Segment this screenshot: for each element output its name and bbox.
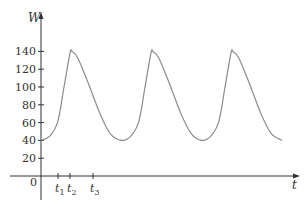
line-chart: 20406080100120140 t1t2t3 W t 0 bbox=[0, 0, 307, 206]
y-tick-label: 100 bbox=[15, 81, 36, 94]
y-tick-label: 80 bbox=[22, 99, 36, 112]
series-line bbox=[41, 50, 282, 141]
y-axis-ticks: 20406080100120140 bbox=[15, 45, 44, 165]
axes bbox=[10, 12, 300, 200]
y-tick-label: 60 bbox=[22, 117, 36, 130]
x-tick-label: t2 bbox=[67, 182, 77, 197]
x-tick-label: t1 bbox=[55, 182, 65, 197]
y-tick-label: 20 bbox=[22, 152, 36, 165]
origin-label: 0 bbox=[30, 176, 37, 189]
chart-container: 20406080100120140 t1t2t3 W t 0 bbox=[0, 0, 307, 206]
y-tick-label: 120 bbox=[15, 63, 36, 76]
x-tick-label: t3 bbox=[90, 182, 100, 197]
y-tick-label: 40 bbox=[22, 134, 36, 147]
y-axis-label: W bbox=[28, 11, 42, 25]
x-axis-ticks: t1t2t3 bbox=[55, 173, 100, 197]
y-tick-label: 140 bbox=[15, 45, 36, 58]
x-axis-label: t bbox=[292, 178, 297, 192]
data-series bbox=[41, 50, 282, 141]
